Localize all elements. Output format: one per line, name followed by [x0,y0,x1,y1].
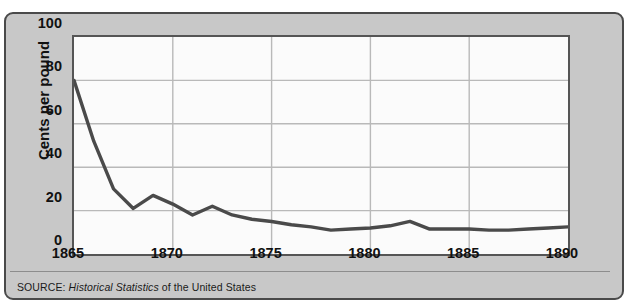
source-suffix: of the United States [162,281,256,293]
x-tick-label-1865: 1865 [33,246,103,261]
y-tick-label-40: 40 [22,146,62,161]
x-tick-label-1880: 1880 [329,246,399,261]
y-tick-label-20: 20 [22,189,62,204]
chart-svg [74,37,568,254]
y-tick-label-60: 60 [22,103,62,118]
y-tick-label-100: 100 [22,16,62,31]
x-tick-label-1875: 1875 [231,246,301,261]
source-prefix: SOURCE: [17,281,66,293]
series-line-cotton-price [74,80,568,230]
x-tick-label-1885: 1885 [428,246,498,261]
chart-figure: Cents per pound 020406080100 18651870187… [0,0,629,308]
footer-divider [10,271,610,272]
x-axis-tick-labels: 186518701875188018851890 [0,246,629,268]
plot-area [72,35,570,256]
source-note: SOURCE: Historical Statistics of the Uni… [17,281,256,293]
y-tick-label-80: 80 [22,59,62,74]
vertical-gridlines [173,37,469,254]
plot-canvas [74,37,568,254]
x-tick-label-1890: 1890 [527,246,597,261]
horizontal-gridlines [74,80,568,210]
x-tick-label-1870: 1870 [132,246,202,261]
source-title: Historical Statistics [69,281,159,293]
